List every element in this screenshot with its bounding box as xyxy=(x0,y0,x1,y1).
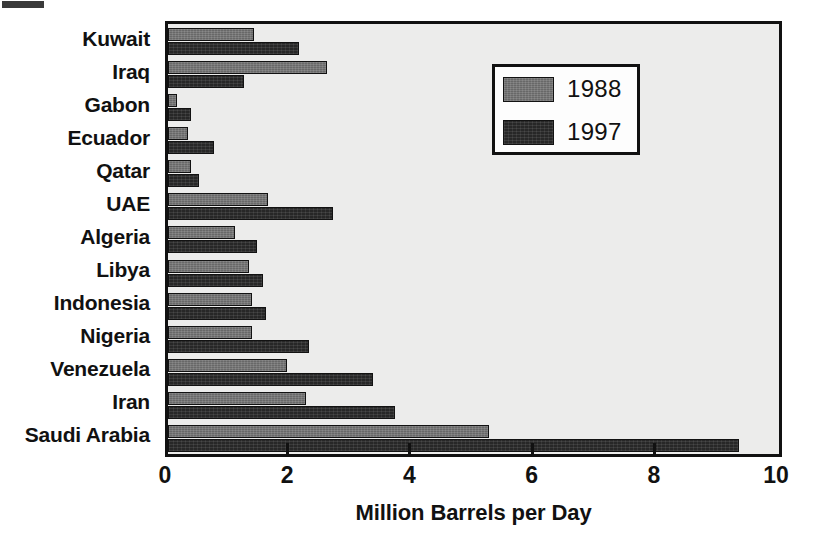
bar-ecuador-1988 xyxy=(168,127,188,140)
category-label-saudi-arabia: Saudi Arabia xyxy=(25,423,150,447)
bar-group xyxy=(168,222,779,255)
category-label-iran: Iran xyxy=(112,390,150,414)
x-tick-mark-4 xyxy=(408,443,411,457)
bar-group xyxy=(168,189,779,222)
bar-qatar-1988 xyxy=(168,160,191,173)
bar-ecuador-1997 xyxy=(168,141,214,154)
x-axis-title: Million Barrels per Day xyxy=(165,500,782,526)
x-axis: 0246810 xyxy=(165,457,782,497)
bar-libya-1997 xyxy=(168,274,263,287)
legend: 1988 1997 xyxy=(492,64,640,155)
bar-group xyxy=(168,256,779,289)
x-tick-label-10: 10 xyxy=(763,462,789,489)
x-tick-mark-8 xyxy=(653,443,656,457)
bar-venezuela-1997 xyxy=(168,373,373,386)
bar-group xyxy=(168,289,779,322)
bar-venezuela-1988 xyxy=(168,359,287,372)
bar-algeria-1988 xyxy=(168,226,235,239)
x-tick-label-8: 8 xyxy=(647,462,660,489)
bar-group xyxy=(168,57,779,90)
legend-swatch-1997 xyxy=(503,120,554,145)
bar-iraq-1997 xyxy=(168,75,244,88)
bar-group xyxy=(168,322,779,355)
scan-artifact-mark xyxy=(2,1,44,8)
legend-item-1997: 1997 xyxy=(503,118,622,146)
bar-group xyxy=(168,90,779,123)
bar-group xyxy=(168,156,779,189)
category-label-uae: UAE xyxy=(106,192,150,216)
bar-uae-1988 xyxy=(168,193,268,206)
bar-group xyxy=(168,355,779,388)
category-labels: KuwaitIraqGabonEcuadorQatarUAEAlgeriaLib… xyxy=(0,21,158,457)
bar-group xyxy=(168,421,779,454)
legend-label-1988: 1988 xyxy=(567,75,622,103)
bar-algeria-1997 xyxy=(168,240,257,253)
bar-iran-1997 xyxy=(168,406,395,419)
bar-saudi-arabia-1988 xyxy=(168,425,489,438)
bar-group xyxy=(168,24,779,57)
x-tick-label-4: 4 xyxy=(403,462,416,489)
category-label-qatar: Qatar xyxy=(96,159,150,183)
category-label-nigeria: Nigeria xyxy=(80,324,150,348)
legend-swatch-1988 xyxy=(503,77,554,102)
bar-gabon-1988 xyxy=(168,94,177,107)
bar-indonesia-1988 xyxy=(168,293,252,306)
category-label-kuwait: Kuwait xyxy=(82,27,150,51)
bar-iraq-1988 xyxy=(168,61,327,74)
category-label-gabon: Gabon xyxy=(85,93,151,117)
category-label-indonesia: Indonesia xyxy=(54,291,150,315)
bar-qatar-1997 xyxy=(168,174,199,187)
bar-nigeria-1988 xyxy=(168,326,252,339)
bar-nigeria-1997 xyxy=(168,340,309,353)
category-label-libya: Libya xyxy=(96,258,150,282)
category-label-algeria: Algeria xyxy=(80,225,150,249)
bars-layer xyxy=(168,24,779,454)
bar-kuwait-1988 xyxy=(168,28,254,41)
x-tick-label-6: 6 xyxy=(525,462,538,489)
category-label-venezuela: Venezuela xyxy=(50,357,150,381)
bar-iran-1988 xyxy=(168,392,306,405)
bar-uae-1997 xyxy=(168,207,333,220)
bar-kuwait-1997 xyxy=(168,42,299,55)
x-tick-mark-6 xyxy=(531,443,534,457)
x-tick-label-0: 0 xyxy=(159,462,172,489)
category-label-iraq: Iraq xyxy=(112,60,150,84)
bar-libya-1988 xyxy=(168,260,249,273)
bar-indonesia-1997 xyxy=(168,307,266,320)
x-tick-label-2: 2 xyxy=(281,462,294,489)
legend-item-1988: 1988 xyxy=(503,75,622,103)
chart-page: KuwaitIraqGabonEcuadorQatarUAEAlgeriaLib… xyxy=(0,0,814,546)
bar-gabon-1997 xyxy=(168,108,191,121)
bar-group xyxy=(168,123,779,156)
x-tick-mark-2 xyxy=(286,443,289,457)
category-label-ecuador: Ecuador xyxy=(67,126,150,150)
legend-label-1997: 1997 xyxy=(567,118,622,146)
bar-group xyxy=(168,388,779,421)
